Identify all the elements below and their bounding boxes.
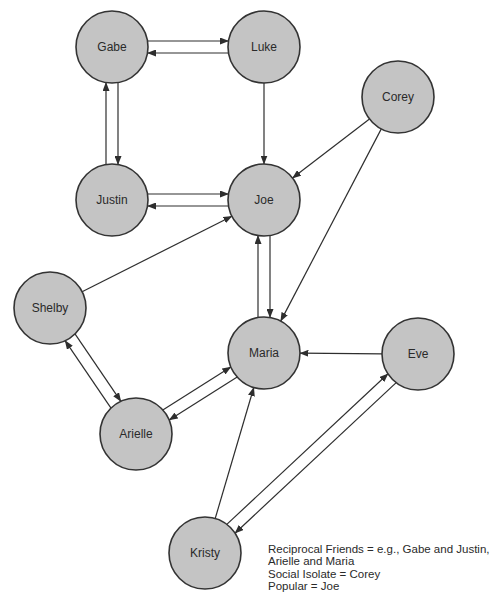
- edge-shelby-to-arielle: [75, 334, 121, 401]
- legend-line-isolate: Social Isolate = Corey: [268, 568, 490, 580]
- node-label: Luke: [251, 40, 277, 54]
- node-label: Joe: [254, 193, 274, 207]
- edge-kristy-to-maria: [215, 388, 254, 519]
- legend-line-reciprocal-cont: Arielle and Maria: [268, 555, 490, 567]
- node-gabe: Gabe: [76, 11, 148, 83]
- node-justin: Justin: [76, 164, 148, 236]
- node-kristy: Kristy: [169, 517, 241, 589]
- node-label: Justin: [96, 193, 127, 207]
- node-label: Corey: [382, 90, 414, 104]
- legend-line-reciprocal: Reciprocal Friends = e.g., Gabe and Just…: [268, 543, 490, 555]
- edge-maria-to-arielle: [169, 377, 237, 420]
- edge-eve-to-maria: [300, 353, 382, 354]
- node-eve: Eve: [382, 318, 454, 390]
- node-label: Shelby: [32, 301, 69, 315]
- edge-arielle-to-shelby: [65, 341, 111, 408]
- node-label: Arielle: [119, 427, 153, 441]
- node-corey: Corey: [362, 61, 434, 133]
- edge-eve-to-kristy: [235, 383, 396, 534]
- node-label: Kristy: [190, 546, 220, 560]
- edge-arielle-to-maria: [163, 367, 231, 410]
- node-label: Maria: [249, 346, 279, 360]
- node-arielle: Arielle: [100, 398, 172, 470]
- node-label: Gabe: [97, 40, 127, 54]
- legend: Reciprocal Friends = e.g., Gabe and Just…: [268, 543, 490, 593]
- node-maria: Maria: [228, 317, 300, 389]
- nodes-layer: GabeLukeCoreyJustinJoeShelbyMariaEveArie…: [14, 11, 454, 589]
- legend-line-popular: Popular = Joe: [268, 580, 490, 592]
- node-shelby: Shelby: [14, 272, 86, 344]
- node-label: Eve: [408, 347, 429, 361]
- node-joe: Joe: [228, 164, 300, 236]
- node-luke: Luke: [228, 11, 300, 83]
- edge-corey-to-joe: [293, 119, 370, 178]
- edge-corey-to-maria: [281, 129, 382, 321]
